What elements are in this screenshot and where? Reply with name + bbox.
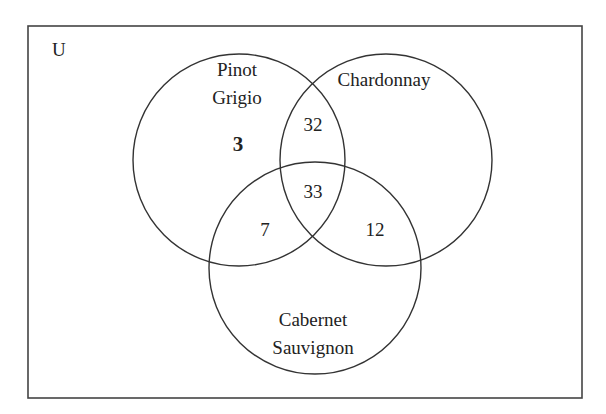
region-pinot-only-value: 3 [233,132,244,156]
region-pinot-chardonnay-value: 32 [304,114,323,135]
venn-diagram: U Pinot Grigio Chardonnay Cabernet Sauvi… [0,0,606,414]
universe-label: U [52,39,66,60]
set-circle-pinot-grigio [133,54,345,266]
set-label-pinot-line1: Pinot [217,59,258,80]
region-pinot-cabernet-value: 7 [260,219,270,240]
set-label-pinot-line2: Grigio [212,87,262,108]
set-label-chardonnay: Chardonnay [338,69,431,90]
region-all-three-value: 33 [304,181,323,202]
region-chardonnay-cabernet-value: 12 [366,219,385,240]
set-label-cabernet-line1: Cabernet [279,309,348,330]
set-label-cabernet-line2: Sauvignon [272,337,354,358]
